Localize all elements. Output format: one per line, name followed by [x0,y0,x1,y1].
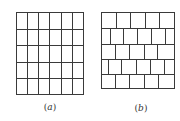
panel-b-caption: (b) [135,103,148,113]
square-grid-panel-a [16,12,84,95]
figure-canvas [0,0,180,121]
brick-grid-panel-b [101,12,175,89]
caption-close-paren: ) [53,102,57,112]
panel-a-caption: (a) [44,102,56,112]
caption-close-paren: ) [144,103,148,113]
